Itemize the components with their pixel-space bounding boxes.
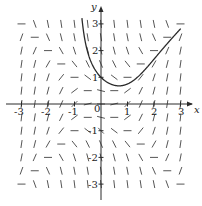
x-tick-label: 1 bbox=[124, 106, 130, 117]
slope-segment bbox=[87, 33, 88, 41]
slope-segment bbox=[74, 33, 75, 41]
slope-segment bbox=[59, 74, 64, 80]
slope-segment bbox=[47, 127, 50, 135]
slope-segment bbox=[180, 60, 181, 68]
y-axis-label: y bbox=[90, 1, 97, 12]
slope-segment bbox=[74, 167, 75, 175]
slope-segment bbox=[166, 20, 169, 28]
slope-segment bbox=[34, 60, 36, 68]
slope-segment bbox=[33, 47, 36, 54]
slope-field-diagram: x y -3 -2 -1 0 1 2 3 3 2 1 -1 -2 -3 bbox=[0, 0, 202, 206]
slope-segment bbox=[46, 60, 50, 67]
slope-segment bbox=[111, 128, 117, 133]
y-tick-label: 2 bbox=[92, 45, 98, 56]
slope-segment bbox=[112, 60, 116, 67]
slope-segment bbox=[114, 180, 115, 188]
slope-segment bbox=[139, 154, 143, 161]
slope-segment bbox=[125, 141, 130, 147]
slope-segment bbox=[125, 61, 130, 67]
y-tick-label: -3 bbox=[88, 179, 98, 190]
x-tick-label: 0 bbox=[94, 103, 100, 114]
x-tick-label: -2 bbox=[41, 106, 51, 117]
slope-segment bbox=[167, 127, 168, 135]
slope-segment bbox=[180, 47, 182, 55]
slope-segment bbox=[126, 154, 129, 162]
slope-segment bbox=[46, 167, 49, 174]
slope-segment bbox=[140, 167, 142, 175]
slope-segment bbox=[140, 33, 142, 41]
slope-segment bbox=[179, 33, 182, 41]
slope-segment bbox=[60, 167, 62, 175]
slope-segment bbox=[34, 87, 35, 95]
slope-segment bbox=[166, 180, 169, 188]
slope-segment bbox=[167, 73, 168, 81]
slope-segment bbox=[59, 47, 63, 54]
slope-segment bbox=[124, 88, 130, 93]
slope-segment bbox=[139, 47, 143, 54]
slope-segment bbox=[152, 141, 156, 148]
slope-segment bbox=[20, 167, 23, 175]
slope-segment bbox=[166, 154, 169, 161]
y-axis-arrow-icon bbox=[99, 6, 104, 12]
x-tick-label: 3 bbox=[178, 106, 184, 117]
slope-segment bbox=[59, 87, 63, 94]
slope-segment bbox=[21, 60, 22, 68]
slope-segment bbox=[47, 180, 49, 188]
slope-segment bbox=[60, 33, 62, 41]
slope-segment bbox=[139, 114, 143, 121]
slope-segment bbox=[21, 73, 22, 81]
slope-segment bbox=[33, 180, 36, 188]
slope-segment bbox=[152, 167, 155, 174]
slope-segment bbox=[180, 87, 181, 95]
slope-segment bbox=[71, 88, 77, 93]
slope-segment bbox=[127, 180, 128, 188]
slope-segment bbox=[47, 87, 49, 95]
y-tick-label: 3 bbox=[92, 18, 98, 29]
y-tick-label: -2 bbox=[88, 152, 98, 163]
slope-segment bbox=[85, 75, 91, 80]
slope-segment bbox=[74, 180, 75, 188]
slope-segment bbox=[47, 74, 50, 82]
slope-segment bbox=[114, 20, 115, 28]
slope-segment bbox=[21, 47, 23, 55]
x-tick-label: -3 bbox=[14, 106, 24, 117]
slope-segment bbox=[180, 127, 181, 135]
slope-segment bbox=[167, 87, 168, 95]
slope-segment bbox=[140, 180, 141, 188]
slope-segment bbox=[61, 20, 62, 28]
slope-segment bbox=[34, 73, 35, 81]
slope-segment bbox=[113, 47, 115, 55]
slope-segment bbox=[153, 180, 155, 188]
slope-segment bbox=[139, 87, 143, 94]
slope-segment bbox=[153, 127, 156, 135]
slope-segment bbox=[166, 140, 168, 148]
slope-segment bbox=[152, 34, 155, 41]
slope-segment bbox=[21, 153, 23, 161]
slope-segment bbox=[46, 34, 49, 41]
x-axis-label: x bbox=[194, 104, 200, 115]
slope-segment bbox=[87, 167, 88, 175]
slope-segment bbox=[127, 33, 128, 41]
slope-segment bbox=[74, 20, 75, 28]
x-axis-arrow-icon bbox=[187, 102, 193, 107]
slope-segment bbox=[73, 154, 76, 162]
slope-segment bbox=[126, 47, 129, 55]
slope-segment bbox=[140, 20, 141, 28]
slope-segment bbox=[72, 141, 77, 147]
slope-segment bbox=[153, 87, 155, 95]
slope-segment bbox=[153, 20, 155, 28]
slope-segment bbox=[180, 73, 181, 81]
slope-segment bbox=[127, 20, 128, 28]
slope-segment bbox=[21, 127, 22, 135]
slope-segment bbox=[59, 114, 63, 121]
slope-segment bbox=[86, 140, 90, 147]
slope-segment bbox=[167, 113, 168, 121]
slope-segment bbox=[21, 87, 22, 95]
slope-segment bbox=[166, 60, 168, 68]
slope-segment bbox=[20, 33, 23, 41]
slope-segment bbox=[59, 154, 63, 161]
slope-segment bbox=[114, 167, 115, 175]
slope-segment bbox=[46, 141, 50, 148]
slope-segment bbox=[179, 167, 182, 175]
slope-segment bbox=[33, 154, 36, 161]
